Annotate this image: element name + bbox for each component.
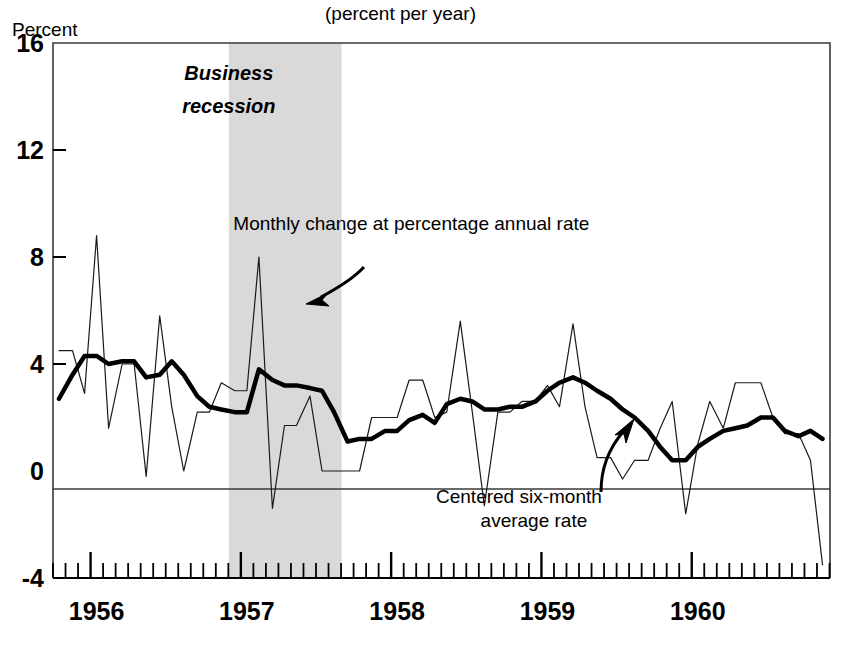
x-tick-label: 1957 bbox=[219, 597, 275, 625]
y-tick-label: 4 bbox=[30, 350, 44, 378]
x-tick-label: 1958 bbox=[369, 597, 425, 625]
centered-average-label-line1: Centered six-month bbox=[436, 486, 602, 507]
x-tick-label: 1960 bbox=[670, 597, 726, 625]
shaded-region-group bbox=[229, 43, 342, 578]
business-recession-label-line1: Business bbox=[184, 62, 273, 84]
monthly-change-label: Monthly change at percentage annual rate bbox=[233, 213, 589, 234]
y-tick-labels: 1612840-4 bbox=[16, 29, 44, 592]
y-tick-label: 8 bbox=[30, 243, 44, 271]
chart-canvas: 1612840-4 19561957195819591960 (percent … bbox=[0, 0, 844, 654]
business-recession-label-line2: recession bbox=[182, 95, 275, 117]
x-tick-label: 1956 bbox=[69, 597, 125, 625]
chart-title: (percent per year) bbox=[325, 3, 476, 24]
y-tick-label: -4 bbox=[22, 564, 44, 592]
centered-average-label-line2: average rate bbox=[481, 510, 588, 531]
y-tick-label: 12 bbox=[16, 136, 44, 164]
y-tick-label: 0 bbox=[30, 457, 44, 485]
y-axis-title: Percent bbox=[12, 19, 78, 40]
x-tick-labels: 19561957195819591960 bbox=[69, 597, 726, 625]
chart-figure: 1612840-4 19561957195819591960 (percent … bbox=[0, 0, 844, 654]
shaded-region-business-recession bbox=[229, 43, 342, 578]
x-tick-label: 1959 bbox=[520, 597, 576, 625]
